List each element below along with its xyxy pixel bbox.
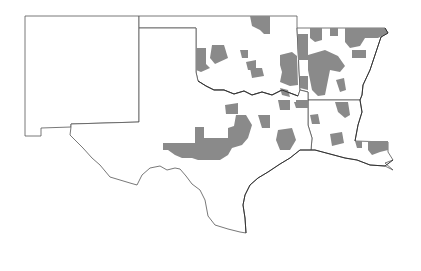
county-group-ar-w — [300, 76, 308, 90]
region-map — [0, 0, 421, 271]
county-group-ar-ne2 — [352, 50, 366, 58]
county-group-ok-east — [280, 52, 298, 86]
state-new-mexico — [25, 16, 139, 136]
county-group-tx-ne — [296, 100, 308, 106]
county-group-tx-nc2 — [278, 100, 290, 110]
county-group-ar-nw — [298, 34, 308, 60]
state-louisiana — [308, 100, 393, 170]
county-group-ar-n2 — [330, 28, 338, 36]
